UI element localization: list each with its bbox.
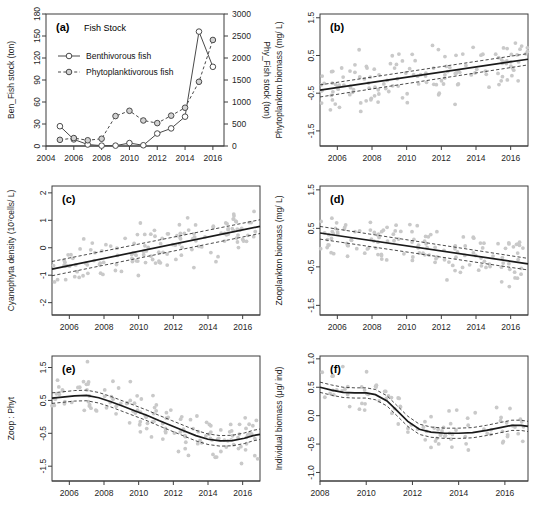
scatter-point <box>85 263 89 267</box>
scatter-point <box>376 253 380 257</box>
y-tick-label: -2 <box>38 299 48 307</box>
scatter-point <box>85 382 89 386</box>
plot-frame <box>320 356 528 481</box>
scatter-point <box>128 421 132 425</box>
scatter-point <box>464 442 468 446</box>
scatter-point <box>514 41 518 45</box>
scatter-point <box>64 278 68 282</box>
scatter-point <box>385 258 389 262</box>
y-tick-label: -1.5 <box>38 459 48 474</box>
scatter-point <box>507 241 511 245</box>
scatter-point <box>399 230 403 234</box>
scatter-point <box>348 69 352 73</box>
scatter-point <box>179 231 183 235</box>
scatter-point <box>473 411 477 415</box>
scatter-point <box>443 55 447 59</box>
scatter-point <box>355 247 359 251</box>
scatter-point <box>166 232 170 236</box>
scatter-point <box>177 450 181 454</box>
x-tick-label: 2012 <box>164 322 183 332</box>
y-tick-label: 60 <box>32 97 42 107</box>
scatter-point <box>449 422 453 426</box>
scatter-point <box>332 252 336 256</box>
scatter-point <box>448 66 452 70</box>
scatter-point <box>479 241 483 245</box>
scatter-point <box>443 73 447 77</box>
scatter-point <box>510 74 514 78</box>
scatter-point <box>225 222 229 226</box>
scatter-point <box>348 405 352 409</box>
scatter-point <box>143 244 147 248</box>
scatter-point <box>455 408 459 412</box>
scatter-point <box>358 75 362 79</box>
x-tick-label: 2010 <box>120 153 139 163</box>
panel-f-plot: 20082010201220142016-1.0-0.50.00.51.0Ind… <box>268 342 538 511</box>
scatter-point <box>526 50 530 54</box>
scatter-point <box>251 424 255 428</box>
x-tick-label: 2012 <box>403 488 422 498</box>
y-tick-label: -1 <box>38 271 48 279</box>
scatter-point <box>516 258 520 262</box>
scatter-point <box>512 245 516 249</box>
scatter-point <box>380 257 384 261</box>
x-tick-label: 2014 <box>199 322 218 332</box>
scatter-point <box>183 447 187 451</box>
x-tick-label: 2006 <box>60 322 79 332</box>
scatter-point <box>231 217 235 221</box>
panel-b: 200620082010201220142016-1.5-0.50.51.5Ph… <box>268 0 538 175</box>
x-tick-label: 2010 <box>129 322 148 332</box>
scatter-point <box>254 419 258 423</box>
scatter-point <box>102 260 106 264</box>
scatter-point <box>178 223 182 227</box>
scatter-point <box>423 420 427 424</box>
scatter-point <box>114 269 118 273</box>
scatter-point <box>392 239 396 243</box>
scatter-point <box>120 269 124 273</box>
scatter-point <box>406 430 410 434</box>
scatter-point <box>53 280 57 284</box>
x-tick-label: 2010 <box>129 488 148 498</box>
scatter-point <box>194 223 198 227</box>
scatter-point <box>123 236 127 240</box>
scatter-point <box>457 82 461 86</box>
x-tick-label: 2016 <box>501 322 520 332</box>
scatter-point <box>359 101 363 105</box>
scatter-point <box>515 242 519 246</box>
scatter-point <box>405 101 409 105</box>
legend-label-benthivorous: Benthivorous fish <box>86 51 151 61</box>
scatter-point <box>521 246 525 250</box>
scatter-point <box>364 99 368 103</box>
data-point <box>99 136 105 142</box>
scatter-point <box>76 386 80 390</box>
scatter-point <box>410 258 414 262</box>
data-point <box>85 137 91 143</box>
scatter-point <box>502 46 506 50</box>
scatter-point <box>335 221 339 225</box>
scatter-point <box>331 98 335 102</box>
scatter-point <box>56 378 60 382</box>
scatter-point <box>323 395 327 399</box>
scatter-point <box>449 437 453 441</box>
scatter-point <box>180 245 184 249</box>
scatter-point <box>436 428 440 432</box>
scatter-point <box>338 105 342 109</box>
scatter-point <box>154 403 158 407</box>
scatter-point <box>149 232 153 236</box>
scatter-point <box>329 108 333 112</box>
scatter-point <box>154 261 158 265</box>
data-point <box>154 131 160 137</box>
y2-tick-label: 1500 <box>232 75 251 85</box>
y-tick-label: 0.5 <box>306 381 316 393</box>
scatter-point <box>144 261 148 265</box>
ci-upper-line <box>320 54 528 85</box>
scatter-point <box>184 435 188 439</box>
panel-a: 2004200620082010201220142016030609012015… <box>0 0 270 175</box>
scatter-point <box>382 82 386 86</box>
scatter-point <box>426 235 430 239</box>
scatter-point <box>483 259 487 263</box>
y-axis-title: Individual biomass (μg/ ind) <box>274 367 284 471</box>
scatter-point <box>450 445 454 449</box>
data-point <box>141 142 147 148</box>
scatter-point <box>463 244 467 248</box>
scatter-point <box>359 110 363 114</box>
